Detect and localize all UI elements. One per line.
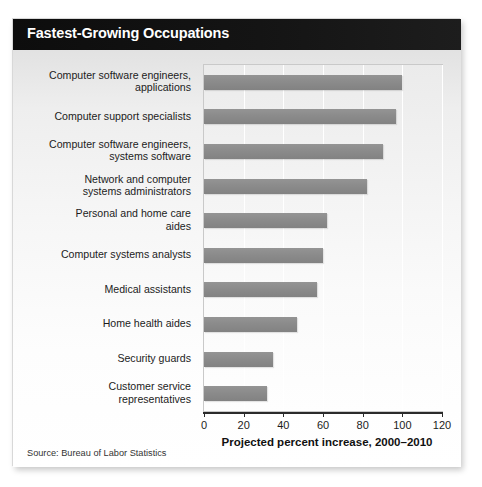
y-axis-category-labels: Computer software engineers, application… <box>13 64 197 412</box>
y-axis-label: Computer support specialists <box>13 110 191 123</box>
x-tick-mark <box>323 412 324 417</box>
plot-area <box>203 64 443 412</box>
y-axis-label: Personal and home care aides <box>13 207 191 232</box>
x-tick-label: 120 <box>425 419 459 431</box>
gridline <box>442 65 443 411</box>
y-axis-label: Customer service representatives <box>13 380 191 405</box>
x-tick-label: 0 <box>187 419 221 431</box>
bar <box>204 75 402 90</box>
y-axis-label: Network and computer systems administrat… <box>13 173 191 198</box>
y-axis-label: Home health aides <box>13 317 191 330</box>
y-axis-label: Security guards <box>13 352 191 365</box>
bar <box>204 144 383 159</box>
x-tick-label: 20 <box>227 419 261 431</box>
bar <box>204 213 327 228</box>
x-tick-label: 40 <box>266 419 300 431</box>
source-note: Source: Bureau of Labor Statistics <box>27 448 166 458</box>
bar <box>204 282 317 297</box>
y-axis-label: Medical assistants <box>13 283 191 296</box>
y-axis-label: Computer systems analysts <box>13 248 191 261</box>
x-tick-mark <box>363 412 364 417</box>
x-tick-label: 80 <box>346 419 380 431</box>
x-tick-mark <box>402 412 403 417</box>
x-tick-label: 60 <box>306 419 340 431</box>
chart-title-bar: Fastest-Growing Occupations <box>13 19 461 50</box>
x-tick-mark <box>442 412 443 417</box>
y-axis-label: Computer software engineers, systems sof… <box>13 138 191 163</box>
y-axis-label: Computer software engineers, application… <box>13 69 191 94</box>
bar-series <box>204 65 442 411</box>
bar <box>204 248 323 263</box>
x-tick-mark <box>283 412 284 417</box>
x-tick-label: 100 <box>385 419 419 431</box>
x-tick-mark <box>244 412 245 417</box>
bar <box>204 179 367 194</box>
chart-body: Computer software engineers, application… <box>13 50 461 467</box>
page-title: Fastest-Growing Occupations <box>27 25 229 41</box>
bar <box>204 317 297 332</box>
bar <box>204 109 396 124</box>
chart-card: Fastest-Growing Occupations Computer sof… <box>12 18 460 466</box>
bar <box>204 386 267 401</box>
bar <box>204 352 273 367</box>
x-tick-mark <box>204 412 205 417</box>
x-axis-title: Projected percent increase, 2000–2010 <box>203 436 451 448</box>
